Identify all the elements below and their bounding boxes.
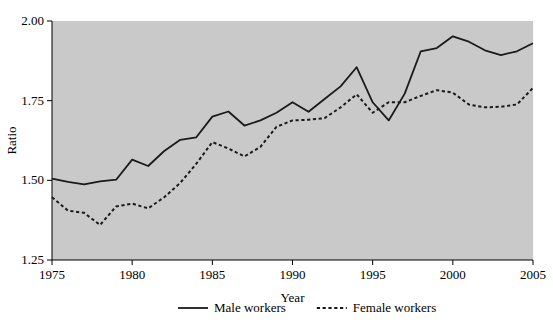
x-tick-label: 1995 (360, 267, 386, 282)
y-tick-label: 1.50 (21, 172, 44, 187)
y-axis-ticks: 1.251.501.752.00 (21, 13, 52, 267)
x-tick-label: 1975 (39, 267, 65, 282)
x-tick-label: 2005 (520, 267, 546, 282)
plot-background (52, 21, 533, 260)
chart-legend: Male workersFemale workers (178, 300, 436, 315)
legend-label-male-workers: Male workers (214, 300, 286, 315)
y-tick-label: 1.25 (21, 252, 44, 267)
y-tick-label: 1.75 (21, 93, 44, 108)
ratio-line-chart: 1.251.501.752.00 19751980198519901995200… (0, 0, 553, 330)
legend-label-female-workers: Female workers (353, 300, 436, 315)
x-axis-ticks: 1975198019851990199520002005 (39, 260, 546, 282)
x-tick-label: 2000 (440, 267, 466, 282)
y-axis-title: Ratio (4, 126, 19, 154)
x-tick-label: 1990 (280, 267, 306, 282)
x-tick-label: 1980 (119, 267, 145, 282)
y-tick-label: 2.00 (21, 13, 44, 28)
x-tick-label: 1985 (199, 267, 225, 282)
chart-figure: 1.251.501.752.00 19751980198519901995200… (0, 0, 553, 330)
